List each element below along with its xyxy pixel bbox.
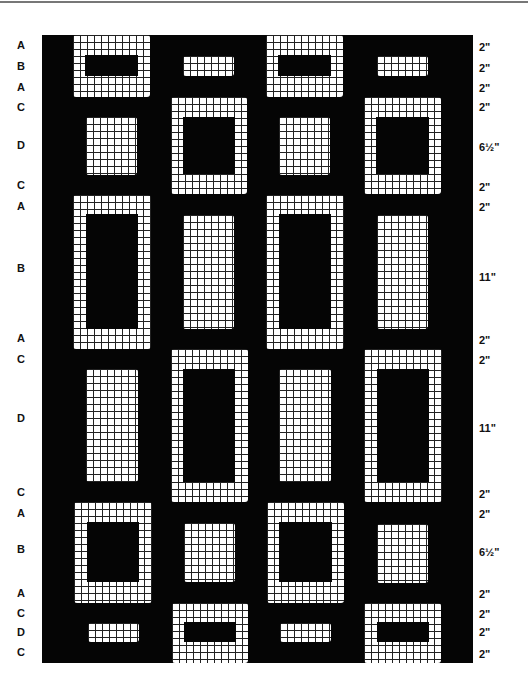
frame-center — [87, 522, 139, 582]
row-measure: 11" — [479, 271, 496, 283]
frame-center — [86, 214, 138, 329]
frame-block — [266, 35, 343, 97]
row-measure: 2" — [479, 608, 490, 620]
inset-block — [86, 369, 138, 482]
inset-block — [184, 523, 235, 582]
row-label: B — [14, 262, 28, 274]
row-label: C — [14, 646, 28, 658]
row-measure: 2" — [479, 62, 490, 74]
row-measure: 2" — [479, 626, 490, 638]
row-measure: 2" — [479, 201, 490, 213]
row-measure: 2" — [479, 82, 490, 94]
frame-center — [377, 369, 429, 482]
inset-block — [86, 117, 137, 175]
row-measure: 6½" — [479, 546, 500, 558]
row-label: A — [14, 81, 28, 93]
row-measure: 6½" — [479, 141, 500, 153]
inset-block — [88, 623, 139, 642]
frame-center — [377, 622, 429, 642]
row-label: C — [14, 607, 28, 619]
frame-center — [184, 622, 236, 642]
inset-block — [183, 56, 234, 76]
frame-center — [85, 55, 138, 76]
row-label: A — [14, 507, 28, 519]
frame-center — [279, 214, 331, 329]
row-label: D — [14, 626, 28, 638]
row-measure: 2" — [479, 508, 490, 520]
row-label: B — [14, 543, 28, 555]
inset-block — [377, 524, 428, 583]
row-label: A — [14, 200, 28, 212]
frame-block — [364, 97, 441, 194]
frame-block — [266, 195, 344, 349]
inset-block — [377, 215, 428, 329]
frame-center — [278, 55, 331, 76]
row-label: C — [14, 353, 28, 365]
row-measure: 2" — [479, 181, 490, 193]
row-label: C — [14, 101, 28, 113]
inset-block — [279, 117, 330, 175]
frame-block — [172, 603, 248, 663]
row-measure: 11" — [479, 422, 496, 434]
top-border-line — [0, 1, 528, 3]
row-measure: 2" — [479, 354, 490, 366]
row-label: A — [14, 39, 28, 51]
frame-block — [73, 195, 151, 349]
frame-center — [376, 117, 429, 174]
frame-center — [183, 369, 235, 482]
row-measure: 2" — [479, 588, 490, 600]
inset-block — [183, 215, 234, 329]
row-measure: 2" — [479, 101, 490, 113]
frame-block — [171, 349, 248, 502]
frame-block — [364, 349, 442, 502]
row-measure: 2" — [479, 41, 490, 53]
row-label: A — [14, 332, 28, 344]
row-measure: 2" — [479, 334, 490, 346]
frame-block — [73, 35, 150, 97]
row-measure: 2" — [479, 648, 490, 660]
frame-center — [183, 117, 235, 174]
row-label: B — [14, 60, 28, 72]
row-label: D — [14, 412, 28, 424]
inset-block — [280, 623, 331, 642]
inset-block — [377, 56, 428, 76]
row-label: D — [14, 139, 28, 151]
row-label: C — [14, 486, 28, 498]
frame-center — [279, 522, 332, 582]
row-label: A — [14, 587, 28, 599]
frame-block — [74, 502, 152, 603]
inset-block — [279, 369, 331, 482]
frame-block — [171, 97, 247, 194]
frame-block — [267, 502, 344, 603]
frame-block — [364, 603, 441, 663]
row-measure: 2" — [479, 488, 490, 500]
row-label: C — [14, 179, 28, 191]
